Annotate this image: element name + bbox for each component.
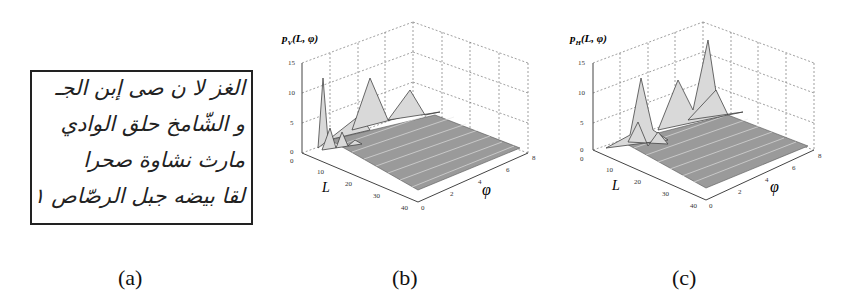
svg-text:4: 4	[765, 176, 769, 184]
svg-text:0: 0	[290, 157, 294, 165]
svg-text:0: 0	[709, 202, 713, 210]
svg-text:6: 6	[506, 166, 510, 174]
handwritten-arabic-image: الغز لا ن صى إبن الجـ و الشّامخ حلق الوا…	[30, 70, 253, 225]
surface-plot-ph: pH(L, φ) 15 10 5 0 0 10 20 30 40 0 2 4 6…	[568, 20, 848, 250]
xlabel-L: L	[611, 178, 620, 193]
arabic-line-4: لقا بيضه جبل الرصّاص ١	[33, 184, 245, 208]
svg-text:0: 0	[421, 204, 425, 212]
svg-text:40: 40	[401, 204, 409, 212]
svg-text:2: 2	[450, 190, 454, 198]
svg-text:20: 20	[634, 178, 642, 186]
svg-text:0: 0	[290, 148, 294, 156]
svg-text:15: 15	[578, 59, 586, 67]
caption-b: (b)	[392, 265, 418, 291]
ylabel-phi: φ	[482, 181, 491, 199]
svg-text:10: 10	[288, 89, 296, 97]
svg-text:8: 8	[532, 154, 536, 162]
svg-text:5: 5	[580, 119, 584, 127]
caption-c: (c)	[672, 265, 696, 291]
xlabel-L: L	[321, 180, 330, 195]
ylabel-phi: φ	[770, 178, 779, 196]
caption-a: (a)	[118, 265, 142, 291]
svg-text:5: 5	[290, 119, 294, 127]
svg-text:15: 15	[288, 59, 296, 67]
svg-text:10: 10	[606, 166, 614, 174]
svg-text:0: 0	[580, 155, 584, 163]
svg-text:30: 30	[373, 192, 381, 200]
svg-text:40: 40	[690, 202, 698, 210]
arabic-line-1: الغز لا ن صى إبن الجـ	[55, 76, 245, 100]
svg-text:10: 10	[317, 168, 325, 176]
svg-text:2: 2	[738, 188, 742, 196]
svg-text:20: 20	[345, 180, 353, 188]
svg-text:0: 0	[580, 146, 584, 154]
arabic-line-2: و الشّامخ حلق الوادي	[61, 112, 246, 136]
svg-text:6: 6	[792, 164, 796, 172]
zlabel-ph: pH(L, φ)	[569, 32, 607, 47]
z-tick-labels: 15 10 5 0	[288, 59, 296, 156]
z-tick-labels: 15 10 5 0	[578, 59, 586, 154]
svg-text:10: 10	[578, 89, 586, 97]
svg-text:8: 8	[818, 152, 822, 160]
zlabel-pv: pV(L, φ)	[281, 32, 318, 47]
surface-plot-pv: pV(L, φ) 15 10 5 0 0 10 20 30 40 0 2 4 6…	[270, 20, 560, 250]
arabic-line-3: مارث نشاوة صحرا	[83, 148, 245, 172]
svg-text:30: 30	[662, 190, 670, 198]
